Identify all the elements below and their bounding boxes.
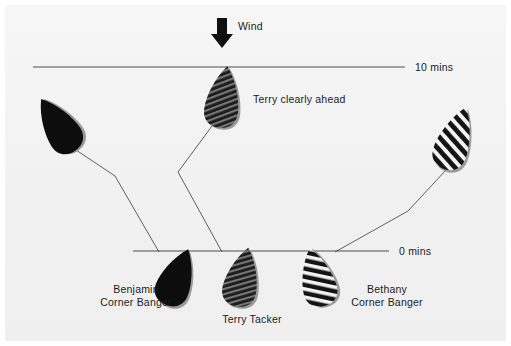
tracks-group xyxy=(70,126,446,252)
boat-benjamin-top xyxy=(27,88,92,161)
track-benjamin xyxy=(70,146,159,252)
wind-label: Wind xyxy=(238,20,263,33)
boat-terry-top xyxy=(202,64,247,132)
annotation-terry-clearly-ahead: Terry clearly ahead xyxy=(253,93,346,106)
wind-arrow-down-icon xyxy=(211,18,233,48)
time-label-10-mins: 10 mins xyxy=(415,61,453,74)
diagram-root: Wind 10 mins 0 mins Terry clearly ahead … xyxy=(0,0,511,346)
diagram-canvas xyxy=(0,0,511,346)
boat-terry-start xyxy=(219,244,267,312)
time-label-0-mins: 0 mins xyxy=(399,245,431,258)
track-bethany xyxy=(335,170,446,252)
wind-arrow-shape xyxy=(211,18,233,48)
track-terry xyxy=(178,126,222,252)
boat-label-terry-tacker: Terry Tacker xyxy=(207,313,297,326)
boat-bethany-top xyxy=(427,101,484,177)
boat-label-bethany: Bethany Corner Banger xyxy=(342,283,432,308)
boat-label-benjamin: Benjamin Corner Banger xyxy=(91,283,181,308)
boat-bethany-start xyxy=(293,243,343,312)
